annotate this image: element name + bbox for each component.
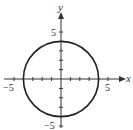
y-tick-label-neg5: −5 xyxy=(44,120,55,130)
x-tick-label-5: 5 xyxy=(105,82,110,93)
y-axis-arrow-icon xyxy=(58,12,64,19)
y-axis-label: y xyxy=(57,1,63,13)
circle-plot: y x −5 5 5 −5 xyxy=(0,0,133,130)
x-axis-label: x xyxy=(125,72,131,84)
y-tick-label-5: 5 xyxy=(51,27,56,38)
x-axis-arrow-icon xyxy=(119,76,126,82)
x-tick-label-neg5: −5 xyxy=(3,82,14,93)
